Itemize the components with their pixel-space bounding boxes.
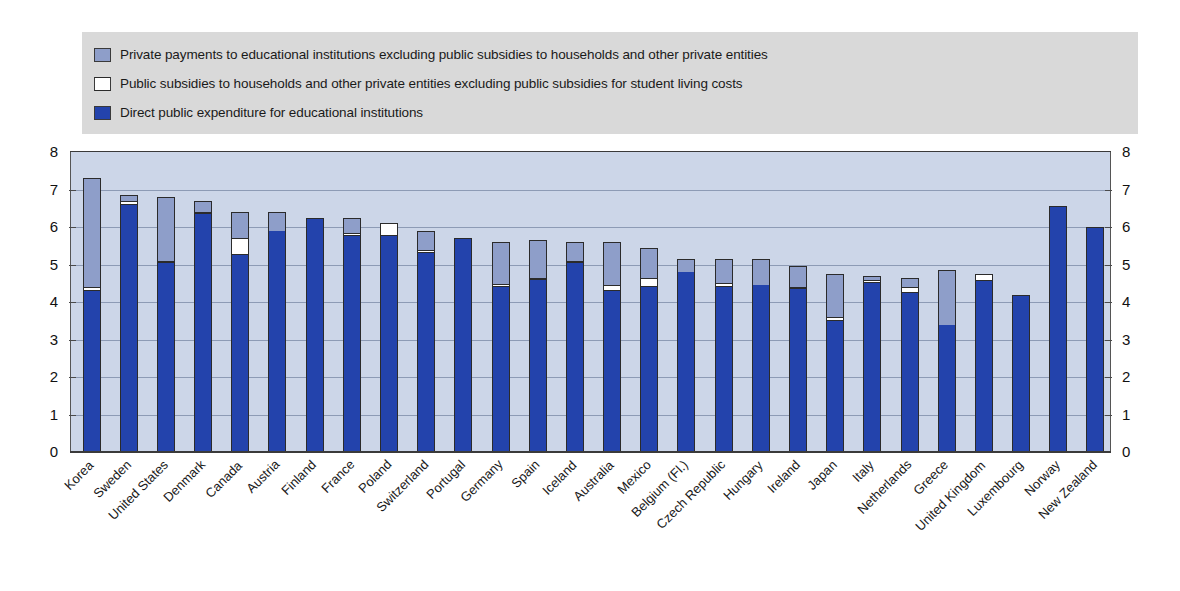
bar-segment-private	[715, 259, 733, 283]
bar-ireland[interactable]	[789, 266, 807, 452]
bar-luxembourg[interactable]	[1012, 295, 1030, 453]
bar-germany[interactable]	[492, 242, 510, 452]
bar-segment-public	[603, 291, 621, 452]
bar-australia[interactable]	[603, 242, 621, 452]
x-label-spain: Spain	[509, 458, 542, 491]
y-tickmark-left-2	[69, 377, 76, 378]
gridline-6	[71, 227, 1110, 228]
y-tickmark-right-5	[1105, 265, 1112, 266]
bar-segment-public	[566, 263, 584, 452]
y-tickmark-right-2	[1105, 377, 1112, 378]
y-tickmark-right-6	[1105, 227, 1112, 228]
y-tick-left-1: 1	[28, 407, 58, 422]
legend-swatch-public-icon	[94, 106, 111, 120]
bar-segment-public	[454, 238, 472, 452]
bar-finland[interactable]	[306, 218, 324, 452]
y-tick-right-3: 3	[1122, 332, 1152, 347]
bar-canada[interactable]	[231, 212, 249, 452]
y-tick-left-7: 7	[28, 182, 58, 197]
bar-segment-public	[1012, 295, 1030, 453]
bar-switzerland[interactable]	[417, 231, 435, 452]
bar-belgium-fl[interactable]	[677, 259, 695, 452]
bar-czech-republic[interactable]	[715, 259, 733, 452]
bar-poland[interactable]	[380, 223, 398, 452]
gridline-5	[71, 265, 1110, 266]
y-tickmark-left-4	[69, 302, 76, 303]
y-tickmark-right-4	[1105, 302, 1112, 303]
bar-sweden[interactable]	[120, 195, 138, 452]
x-label-canada: Canada	[203, 458, 244, 499]
x-label-austria: Austria	[244, 458, 282, 496]
bar-portugal[interactable]	[454, 238, 472, 452]
gridline-7	[71, 190, 1110, 191]
bar-austria[interactable]	[268, 212, 286, 452]
bar-united-states[interactable]	[157, 197, 175, 452]
bar-netherlands[interactable]	[901, 278, 919, 452]
y-tick-left-5: 5	[28, 257, 58, 272]
legend-label-subsidy: Public subsidies to households and other…	[120, 76, 742, 91]
bar-segment-private	[194, 201, 212, 212]
bar-segment-private	[268, 212, 286, 231]
bar-spain[interactable]	[529, 240, 547, 452]
bar-segment-private	[901, 278, 919, 287]
bar-segment-private	[343, 218, 361, 234]
y-tick-left-2: 2	[28, 369, 58, 384]
bar-japan[interactable]	[826, 274, 844, 452]
bar-segment-public	[789, 289, 807, 452]
bar-segment-private	[789, 266, 807, 287]
bar-mexico[interactable]	[640, 248, 658, 452]
bar-segment-subsidy	[380, 223, 398, 236]
bar-segment-public	[1049, 206, 1067, 452]
y-tick-right-6: 6	[1122, 219, 1152, 234]
bar-segment-public	[640, 287, 658, 452]
bar-korea[interactable]	[83, 178, 101, 452]
chart-legend: Private payments to educational institut…	[82, 32, 1138, 134]
bar-segment-public	[677, 272, 695, 452]
bar-united-kingdom[interactable]	[975, 274, 993, 452]
bar-hungary[interactable]	[752, 259, 770, 452]
x-label-finland: Finland	[279, 458, 318, 497]
bar-italy[interactable]	[863, 276, 881, 452]
bar-segment-private	[603, 242, 621, 285]
bar-segment-private	[938, 270, 956, 324]
x-label-ireland: Ireland	[765, 458, 802, 495]
y-tick-right-1: 1	[1122, 407, 1152, 422]
bar-segment-private	[566, 242, 584, 261]
legend-item-subsidy: Public subsidies to households and other…	[94, 69, 1138, 98]
bar-segment-public	[529, 280, 547, 453]
x-label-france: France	[319, 458, 357, 496]
bar-segment-public	[268, 231, 286, 452]
bar-segment-public	[417, 253, 435, 452]
y-tick-left-4: 4	[28, 294, 58, 309]
y-tick-left-8: 8	[28, 144, 58, 159]
bar-segment-public	[752, 285, 770, 452]
bar-iceland[interactable]	[566, 242, 584, 452]
x-label-italy: Italy	[850, 458, 876, 484]
x-label-hungary: Hungary	[721, 458, 765, 502]
bar-segment-private	[231, 212, 249, 238]
bar-segment-public	[120, 205, 138, 453]
legend-item-public: Direct public expenditure for educationa…	[94, 98, 1138, 127]
bar-greece[interactable]	[938, 270, 956, 452]
bar-segment-public	[863, 283, 881, 452]
y-tick-left-6: 6	[28, 219, 58, 234]
bar-denmark[interactable]	[194, 201, 212, 452]
bar-segment-private	[492, 242, 510, 284]
bar-new-zealand[interactable]	[1086, 227, 1104, 452]
bar-norway[interactable]	[1049, 206, 1067, 452]
bar-segment-public	[975, 281, 993, 452]
x-label-japan: Japan	[805, 458, 839, 492]
bar-segment-subsidy	[975, 274, 993, 282]
y-tickmark-right-3	[1105, 340, 1112, 341]
x-label-czech-republic: Czech Republic	[654, 458, 728, 532]
y-tickmark-right-1	[1105, 415, 1112, 416]
y-tick-right-7: 7	[1122, 182, 1152, 197]
y-tickmark-left-5	[69, 265, 76, 266]
y-tickmark-left-6	[69, 227, 76, 228]
bar-segment-public	[1086, 227, 1104, 452]
y-tick-right-2: 2	[1122, 369, 1152, 384]
bar-france[interactable]	[343, 218, 361, 452]
bar-segment-public	[231, 255, 249, 452]
bar-segment-private	[826, 274, 844, 317]
bar-segment-subsidy	[640, 278, 658, 287]
